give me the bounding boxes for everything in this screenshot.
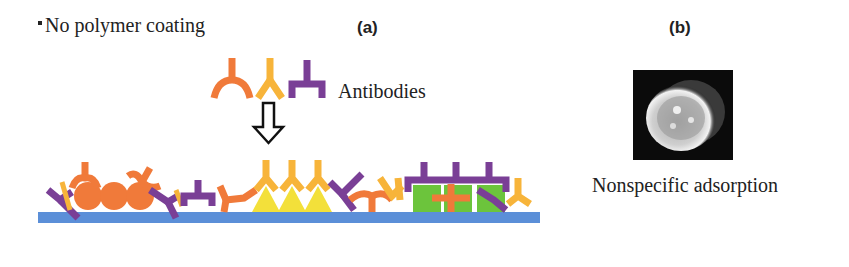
substrate-surface	[38, 212, 540, 223]
nonspecific-adsorption-caption: Nonspecific adsorption	[592, 174, 778, 197]
cell-micrograph	[633, 70, 733, 160]
antibody-orange-icon	[214, 58, 250, 98]
down-arrow-icon	[254, 103, 283, 143]
yellow-triangles	[252, 186, 332, 212]
antibody-yellow-icon	[258, 58, 282, 98]
antibody-purple-icon	[292, 60, 322, 98]
